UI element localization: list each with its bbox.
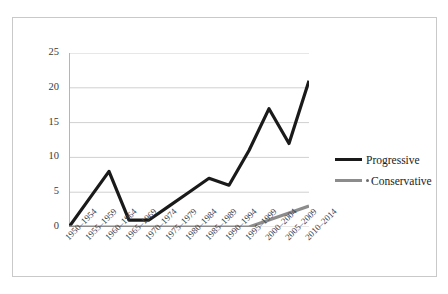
legend-color-swatch — [335, 179, 362, 182]
chart-legend: ProgressiveConservative — [335, 149, 447, 191]
legend-marker-dot-icon — [366, 179, 369, 182]
y-tick-label: 0 — [33, 221, 59, 232]
series-line-progressive — [69, 81, 309, 227]
y-tick-label: 20 — [33, 82, 59, 93]
chart-screenshot: 0510152025 1950–19541955–19591960–196419… — [0, 0, 448, 294]
legend-color-swatch — [335, 158, 362, 161]
plot-area — [69, 53, 309, 227]
y-tick-label: 5 — [33, 186, 59, 197]
y-tick-label: 10 — [33, 151, 59, 162]
y-tick-label: 25 — [33, 47, 59, 58]
plot-svg — [69, 53, 309, 227]
legend-label: Progressive — [366, 154, 420, 166]
legend-label: Conservative — [371, 175, 432, 187]
y-tick-label: 15 — [33, 117, 59, 128]
chart-frame: 0510152025 1950–19541955–19591960–196419… — [12, 17, 437, 277]
legend-item[interactable]: Progressive — [335, 149, 447, 170]
legend-item[interactable]: Conservative — [335, 170, 447, 191]
